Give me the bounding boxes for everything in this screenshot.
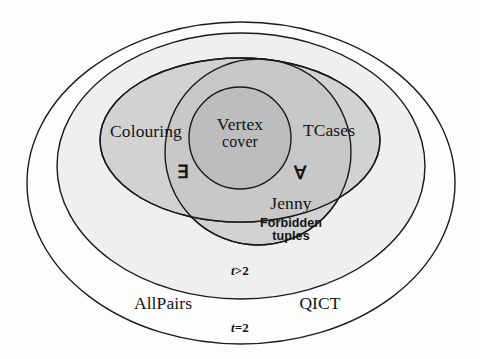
venn-shapes: [0, 0, 480, 359]
euler-diagram: Colouring Vertex cover TCases ∃ ∀ Jenny …: [0, 0, 480, 359]
region-vertex-cover: [189, 87, 291, 189]
